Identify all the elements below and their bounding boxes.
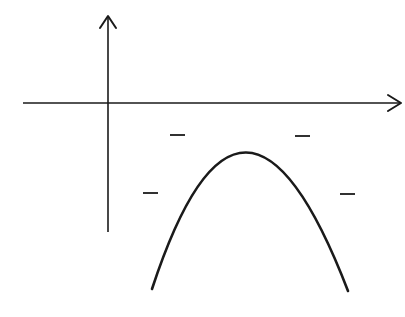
- axes: [23, 16, 401, 232]
- sign-marks: [143, 135, 355, 194]
- diagram-canvas: [0, 0, 405, 317]
- parabola-curve: [152, 152, 348, 291]
- parabola-diagram: [0, 0, 405, 317]
- parabola-path: [152, 152, 348, 291]
